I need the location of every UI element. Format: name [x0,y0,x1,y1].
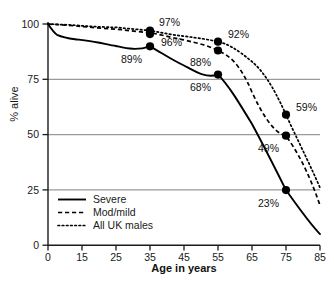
y-tick-labels: 100 75 50 25 0 [21,18,39,251]
survival-chart-figure: 100 75 50 25 0 0 15 25 35 45 55 65 [0,0,334,281]
annotation-49-percent: 49% [258,142,279,154]
marker-mod-mild-55 [214,46,222,54]
annotation-92-percent: 92% [228,28,249,40]
marker-all-uk-males-75 [282,111,290,119]
annotation-59-percent: 59% [296,101,317,113]
x-tick-label-35: 35 [144,251,156,263]
marker-severe-55 [214,71,222,79]
marker-mod-mild-35 [146,30,154,38]
y-axis-title: % alive [8,64,24,144]
marker-mod-mild-75 [282,132,290,140]
series-line-all-uk-males [48,24,320,188]
x-tick-label-15: 15 [76,251,88,263]
y-tick-label-0: 0 [33,239,39,251]
annotation-96-percent: 96% [161,36,182,48]
annotation-68-percent: 68% [190,81,211,93]
legend-label-all-uk-males: All UK males [93,219,153,231]
annotation-23-percent: 23% [258,197,279,209]
chart-plot-area: 100 75 50 25 0 0 15 25 35 45 55 65 [0,0,334,281]
data-point-markers [146,27,290,195]
y-tick-label-50: 50 [27,128,39,140]
y-tick-label-75: 75 [27,73,39,85]
marker-all-uk-males-55 [214,38,222,46]
legend-label-mod-mild: Mod/mild [93,206,136,218]
legend-label-severe: Severe [93,193,126,205]
x-tick-label-45: 45 [178,251,190,263]
x-axis-title: Age in years [48,262,320,274]
series-line-severe [48,24,320,234]
gridlines [48,79,320,190]
x-tick-label-25: 25 [110,251,122,263]
x-tick-label-75: 75 [280,251,292,263]
x-tick-label-65: 65 [246,251,258,263]
marker-severe-75 [282,186,290,194]
y-tick-label-100: 100 [21,18,39,30]
x-tick-label-55: 55 [212,251,224,263]
annotation-97-percent: 97% [159,16,180,28]
annotation-88-percent: 88% [190,56,211,68]
y-tick-label-25: 25 [27,184,39,196]
x-tick-label-85: 85 [314,251,326,263]
y-tick-marks [43,24,49,245]
chart-legend: Severe Mod/mild All UK males [58,193,153,231]
axis-spines [48,22,320,245]
annotation-89-percent: 89% [121,53,142,65]
x-tick-label-0: 0 [45,251,51,263]
marker-severe-35 [146,42,154,50]
x-tick-labels: 0 15 25 35 45 55 65 75 85 [45,251,326,263]
